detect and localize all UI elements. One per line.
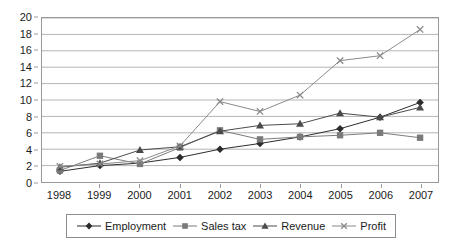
x-tick-label: 2007 [409,189,433,201]
legend-swatch-diamond-icon [76,220,102,232]
data-point-square [182,223,188,229]
y-tick-label: 16 [20,44,32,56]
legend-label: Employment [105,220,166,232]
series-layer [42,18,438,182]
legend-item-revenue[interactable]: Revenue [252,220,325,232]
x-tick-mark [260,184,261,188]
x-tick-label: 2005 [328,189,352,201]
series-line [60,102,420,171]
data-point-square [417,135,423,141]
series-employment [56,99,424,175]
y-tick-mark [34,50,38,51]
x-tick-mark [99,184,100,188]
y-tick-mark [34,66,38,67]
data-point-square [297,134,303,140]
legend-swatch-triangle-icon [252,220,278,232]
y-tick-mark [34,149,38,150]
data-point-triangle [416,103,424,110]
y-tick-mark [34,33,38,34]
x-tick-mark [220,184,221,188]
series-revenue [56,103,424,170]
data-point-x [217,98,223,104]
y-tick-mark [34,100,38,101]
data-point-triangle [336,109,344,116]
x-tick-mark [139,184,140,188]
x-tick-mark [300,184,301,188]
x-tick-mark [421,184,422,188]
legend-item-sales-tax[interactable]: Sales tax [172,220,246,232]
y-tick-label: 8 [26,111,32,123]
series-profit [57,26,424,169]
y-tick-mark [34,83,38,84]
y-tick-label: 14 [20,61,32,73]
data-point-diamond [176,154,184,162]
data-point-square [257,136,263,142]
data-point-square [97,153,103,159]
y-tick-label: 6 [26,127,32,139]
y-tick-label: 18 [20,28,32,40]
data-point-square [137,161,143,167]
data-point-diamond [336,125,344,133]
x-tick-mark [341,184,342,188]
y-tick-label: 0 [26,177,32,189]
y-tick-mark [34,116,38,117]
y-tick-label: 2 [26,160,32,172]
legend-swatch-square-icon [172,220,198,232]
x-tick-label: 2001 [167,189,191,201]
data-point-square [377,130,383,136]
y-tick-label: 12 [20,77,32,89]
line-chart: 02468101214161820 1998199920002001200220… [0,0,459,248]
x-tick-label: 2000 [127,189,151,201]
y-tick-label: 4 [26,144,32,156]
x-axis: 1998199920002001200220032004200520062007 [41,184,439,206]
data-point-x [257,108,263,114]
data-point-x [297,92,303,98]
y-tick-mark [34,166,38,167]
y-axis: 02468101214161820 [0,17,38,183]
series-sales-tax [57,127,424,174]
y-tick-label: 20 [20,11,32,23]
x-tick-label: 2003 [248,189,272,201]
data-point-x [417,26,423,32]
legend-item-profit[interactable]: Profit [331,220,386,232]
x-tick-mark [381,184,382,188]
legend-label: Profit [360,220,386,232]
y-tick-mark [34,183,38,184]
data-point-diamond [216,145,224,153]
y-tick-mark [34,17,38,18]
x-tick-label: 1999 [87,189,111,201]
y-tick-label: 10 [20,94,32,106]
y-tick-mark [34,133,38,134]
data-point-diamond [86,223,93,230]
x-tick-mark [180,184,181,188]
x-tick-label: 2006 [369,189,393,201]
data-point-square [337,132,343,138]
x-tick-label: 2002 [208,189,232,201]
series-line [60,107,420,167]
legend-label: Revenue [281,220,325,232]
plot-area [41,17,439,183]
chart-legend: EmploymentSales taxRevenueProfit [66,214,396,238]
x-tick-label: 1998 [47,189,71,201]
legend-swatch-x-icon [331,220,357,232]
legend-label: Sales tax [201,220,246,232]
x-tick-label: 2004 [288,189,312,201]
legend-item-employment[interactable]: Employment [76,220,166,232]
